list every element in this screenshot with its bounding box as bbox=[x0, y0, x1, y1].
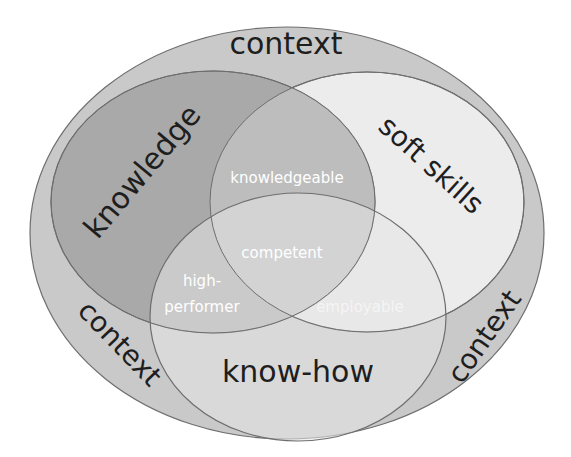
competent-label: competent bbox=[241, 244, 322, 262]
venn-svg: context knowledge soft skills context co… bbox=[0, 0, 571, 457]
know-how-label: know-how bbox=[222, 354, 374, 389]
employable-label: employable bbox=[316, 298, 404, 316]
know-how-circle bbox=[150, 193, 446, 441]
knowledgeable-label: knowledgeable bbox=[230, 169, 343, 187]
context-top-label: context bbox=[229, 26, 342, 61]
high-performer-label-line2: performer bbox=[164, 298, 240, 316]
venn-diagram: context knowledge soft skills context co… bbox=[0, 0, 571, 457]
high-performer-label-line1: high- bbox=[183, 272, 221, 290]
